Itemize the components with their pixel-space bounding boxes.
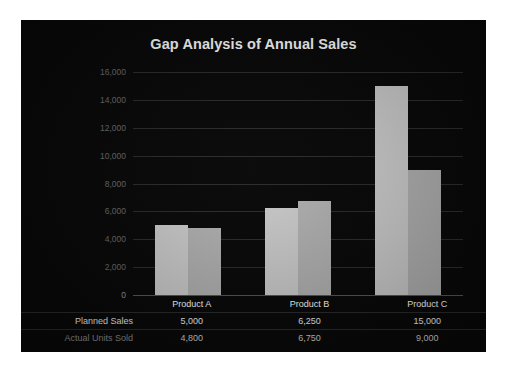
y-axis-tick-label: 12,000 [100, 123, 126, 133]
y-axis-tick-label: 14,000 [100, 95, 126, 105]
y-axis-tick-label: 16,000 [100, 67, 126, 77]
bar-planned-sales [155, 225, 188, 295]
table-cell-planned-product-a: 5,000 [133, 313, 251, 330]
bar-group [265, 72, 331, 295]
table-cell-planned-product-b: 6,250 [251, 313, 369, 330]
chart-panel: Gap Analysis of Annual Sales 16,00014,00… [21, 20, 486, 352]
bar-group [375, 72, 441, 295]
y-axis-tick-label: 2,000 [105, 262, 126, 272]
chart-data-table: Product A Product B Product C Planned Sa… [21, 296, 486, 346]
y-axis-tick-label: 10,000 [100, 151, 126, 161]
y-axis-tick-label: 8,000 [105, 179, 126, 189]
table-cell-actual-product-a: 4,800 [133, 330, 251, 347]
bar-actual-units-sold [188, 228, 221, 295]
table-row-label-actual-units-sold: Actual Units Sold [21, 330, 133, 347]
y-axis-tick-label: 4,000 [105, 234, 126, 244]
bar-actual-units-sold [298, 201, 331, 295]
bar-planned-sales [375, 86, 408, 295]
table-header-product-c: Product C [368, 296, 486, 313]
table-row: Planned Sales 5,000 6,250 15,000 [21, 313, 486, 330]
table-cell-actual-product-b: 6,750 [251, 330, 369, 347]
table-corner-cell [21, 296, 133, 313]
plot-area: 16,00014,00012,00010,0008,0006,0004,0002… [133, 72, 463, 295]
bar-group [155, 72, 221, 295]
table-header-row: Product A Product B Product C [21, 296, 486, 313]
table-row-label-planned-sales: Planned Sales [21, 313, 133, 330]
bar-planned-sales [265, 208, 298, 295]
table-row: Actual Units Sold 4,800 6,750 9,000 [21, 330, 486, 347]
table-header-product-b: Product B [251, 296, 369, 313]
table-header-product-a: Product A [133, 296, 251, 313]
table-cell-actual-product-c: 9,000 [368, 330, 486, 347]
table-cell-planned-product-c: 15,000 [368, 313, 486, 330]
chart-title: Gap Analysis of Annual Sales [21, 36, 486, 52]
y-axis-tick-label: 6,000 [105, 206, 126, 216]
bar-actual-units-sold [408, 170, 441, 295]
